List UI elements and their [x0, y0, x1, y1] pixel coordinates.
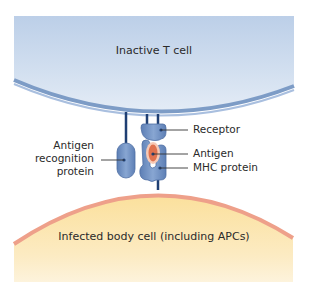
receptor-icon — [141, 124, 166, 141]
recognition-label-line3: protein — [20, 166, 94, 177]
antigen-recognition-protein-icon — [117, 143, 135, 178]
mhc-protein-label: MHC protein — [193, 162, 258, 173]
antigen-label: Antigen — [193, 148, 234, 159]
t-cell-antigen-diagram: Inactive T cell Receptor Antigen MHC pro… — [0, 0, 309, 296]
recognition-label-line1: Antigen — [20, 140, 94, 151]
t-cell-label: Inactive T cell — [104, 45, 204, 56]
recognition-label-line2: recognition — [20, 153, 94, 164]
t-cell — [14, 16, 294, 116]
antigen-icon — [146, 142, 160, 164]
infected-cell-label: Infected body cell (including APCs) — [54, 231, 254, 242]
receptor-label: Receptor — [193, 124, 240, 135]
